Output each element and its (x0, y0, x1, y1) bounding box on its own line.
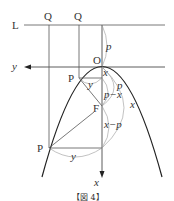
label-p-top: p (105, 40, 112, 52)
label-x-arc: x (129, 98, 135, 110)
parabola-diagram: L Q Q O y x P P F p x y p p−x x x−p y 【図… (0, 0, 174, 201)
y-axis-arrow-icon (24, 65, 31, 70)
label-Q1: Q (44, 10, 52, 22)
label-x-axis: x (93, 176, 99, 188)
label-y-lower: y (70, 150, 76, 162)
label-y-upper: y (87, 78, 93, 90)
label-P-lower: P (37, 142, 43, 154)
label-L: L (12, 19, 19, 31)
label-O: O (93, 54, 101, 66)
label-F: F (93, 102, 99, 114)
label-P-upper: P (68, 72, 74, 84)
x-axis-arrow-icon (100, 171, 105, 178)
label-p-minus-x: p−x (103, 88, 122, 100)
p-lower-to-focus (49, 112, 94, 148)
figure-caption: 【図 4】 (72, 193, 104, 201)
label-x-small: x (102, 66, 108, 78)
label-x-minus-p: x−p (103, 118, 122, 130)
label-Q2: Q (74, 10, 82, 22)
label-y-axis: y (11, 60, 17, 72)
